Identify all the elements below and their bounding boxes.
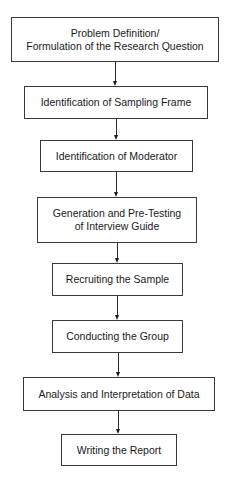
step-label: Identification of Sampling Frame [41,96,192,109]
step-sampling-frame: Identification of Sampling Frame [24,86,208,119]
connector-line [118,353,119,373]
step-label: Recruiting the Sample [66,273,169,286]
step-interview-guide: Generation and Pre-Testing of Interview … [37,197,197,243]
step-conducting-group: Conducting the Group [52,320,183,353]
connector-line [118,411,119,429]
step-label: Conducting the Group [66,330,169,343]
step-moderator: Identification of Moderator [40,140,193,172]
step-label: Analysis and Interpretation of Data [38,388,199,401]
connector-line [116,172,117,193]
step-label: Identification of Moderator [56,150,177,163]
connector-line [115,62,116,82]
step-analysis: Analysis and Interpretation of Data [23,377,215,411]
step-writing-report: Writing the Report [61,434,177,466]
step-problem-definition: Problem Definition/ Formulation of the R… [11,17,219,62]
connector-line [117,243,118,258]
step-label: Writing the Report [77,444,161,457]
connector-line [116,119,117,136]
connector-line [117,296,118,315]
step-label: Generation and Pre-Testing of Interview … [53,207,181,233]
step-recruiting: Recruiting the Sample [52,263,183,296]
step-label: Problem Definition/ Formulation of the R… [26,27,203,53]
